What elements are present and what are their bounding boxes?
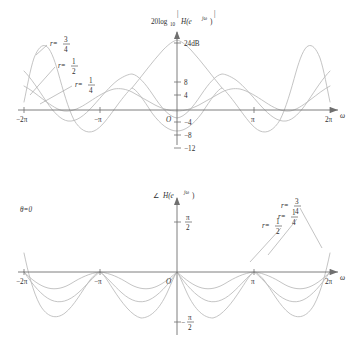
theta-label: θ=0 xyxy=(20,206,32,214)
phase-legend-label-2: r= xyxy=(262,222,270,230)
magnitude-origin-label: O xyxy=(166,116,172,124)
phase-x-arrow xyxy=(330,269,338,275)
magnitude-yticklabel-24: 24dB xyxy=(184,40,200,48)
magnitude-yticklabel-neg12: −12 xyxy=(184,145,196,153)
magnitude-yticklabel-neg8: −8 xyxy=(184,132,192,140)
magnitude-legend-den-1: 2 xyxy=(72,68,76,76)
frequency-response-figure: 20log 10 | H(e jω ) | −2π −π O π 2π ω 24… xyxy=(0,0,351,347)
phase-title: ∠ H(e jω ) xyxy=(153,189,195,200)
magnitude-legend-den-0: 4 xyxy=(64,46,68,54)
magnitude-legend-num-1: 1 xyxy=(72,58,76,66)
magnitude-xticklabel-pi: π xyxy=(251,116,255,124)
magnitude-legend-item-2: r= 1 4 xyxy=(75,77,95,95)
magnitude-title-rest: H(e xyxy=(180,18,193,26)
magnitude-legend-den-2: 4 xyxy=(89,87,93,95)
phase-legend-den-0: 4 xyxy=(295,208,299,216)
magnitude-title-exp: jω xyxy=(201,15,207,21)
magnitude-legend-num-2: 1 xyxy=(89,77,93,85)
phase-xticklabel-pi: π xyxy=(251,278,255,286)
phase-xticklabel-2pi: 2π xyxy=(325,278,333,286)
magnitude-title-bar-right: | xyxy=(214,10,215,18)
magnitude-legend-item-1: r= 1 2 xyxy=(58,58,78,76)
phase-yticklabel-halfpi-num: π xyxy=(186,214,190,222)
magnitude-xticklabel-neg2pi: −2π xyxy=(16,116,28,124)
magnitude-legend-item-0: r= 3 4 xyxy=(50,36,70,54)
phase-legend-item-1: r= 1 4 xyxy=(278,209,298,227)
phase-yticklabel-neghalfpi-den: 2 xyxy=(188,324,192,332)
phase-xticklabel-negpi: −π xyxy=(94,278,102,286)
phase-yticklabel-halfpi-den: 2 xyxy=(186,224,190,232)
magnitude-legend-label-2: r= xyxy=(75,81,83,89)
magnitude-xlabel: ω xyxy=(340,112,345,120)
magnitude-yticklabel-8: 8 xyxy=(184,79,188,87)
phase-legend-item-2: r= 1 2 xyxy=(262,218,282,236)
magnitude-legend-num-0: 3 xyxy=(64,36,68,44)
magnitude-yticklabel-4: 4 xyxy=(184,92,188,100)
phase-legend-num-2: 1 xyxy=(276,218,280,226)
phase-xticklabel-neg2pi: −2π xyxy=(16,278,28,286)
phase-legend-label-0: r= xyxy=(281,202,289,210)
phase-title-exp: jω xyxy=(183,189,189,195)
phase-title-rest: H(e xyxy=(162,192,175,200)
magnitude-y-arrow xyxy=(174,31,180,39)
magnitude-chart: 20log 10 | H(e jω ) | −2π −π O π 2π ω 24… xyxy=(16,10,345,153)
phase-legend-den-1: 4 xyxy=(292,219,296,227)
magnitude-legend-label-1: r= xyxy=(58,62,66,70)
phase-legend-num-1: 1 xyxy=(292,209,296,217)
magnitude-title: 20log 10 | H(e jω ) | xyxy=(151,10,215,27)
phase-chart: ∠ H(e jω ) θ=0 −2π −π O π 2π ω π 2 − xyxy=(16,189,345,335)
magnitude-xticklabel-negpi: −π xyxy=(94,116,102,124)
phase-yticklabel-neghalfpi-sign: − xyxy=(181,319,185,327)
phase-yticklabel-neghalfpi: − π 2 xyxy=(181,314,194,332)
magnitude-title-bar-left: | xyxy=(177,10,178,18)
magnitude-legend-label-0: r= xyxy=(50,40,58,48)
phase-title-close: ) xyxy=(192,192,195,200)
phase-legend-leader-0 xyxy=(300,208,322,248)
magnitude-title-close: ) xyxy=(210,18,213,26)
phase-y-arrow xyxy=(174,197,180,205)
magnitude-yticklabel-neg4: −4 xyxy=(184,119,192,127)
magnitude-xticklabel-2pi: 2π xyxy=(325,116,333,124)
phase-legend-den-2: 2 xyxy=(276,228,280,236)
phase-yticklabel-halfpi: π 2 xyxy=(185,214,192,232)
magnitude-x-arrow xyxy=(330,107,338,113)
phase-xlabel: ω xyxy=(340,274,345,282)
phase-yticklabel-neghalfpi-num: π xyxy=(188,314,192,322)
angle-icon: ∠ xyxy=(153,192,159,200)
magnitude-title-base: 20log xyxy=(151,18,168,26)
phase-origin-label: O xyxy=(166,278,172,286)
magnitude-title-sub: 10 xyxy=(170,21,176,27)
phase-legend-num-0: 3 xyxy=(295,198,299,206)
magnitude-legend-leader-1 xyxy=(30,67,55,95)
